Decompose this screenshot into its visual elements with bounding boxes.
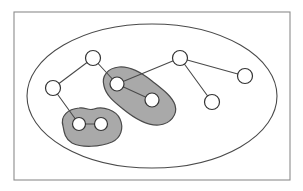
graph-node-n3[interactable] <box>110 77 124 91</box>
graph-node-n1[interactable] <box>46 81 61 96</box>
graph-node-n5[interactable] <box>173 51 188 66</box>
graph-node-n4[interactable] <box>145 93 159 107</box>
graph-node-n2[interactable] <box>86 51 101 66</box>
graph-diagram-canvas <box>0 0 303 191</box>
graph-node-n7[interactable] <box>205 95 220 110</box>
graph-node-n9[interactable] <box>95 118 108 131</box>
graph-node-n8[interactable] <box>73 118 86 131</box>
diagram-root <box>0 0 303 191</box>
graph-node-n6[interactable] <box>238 69 253 84</box>
